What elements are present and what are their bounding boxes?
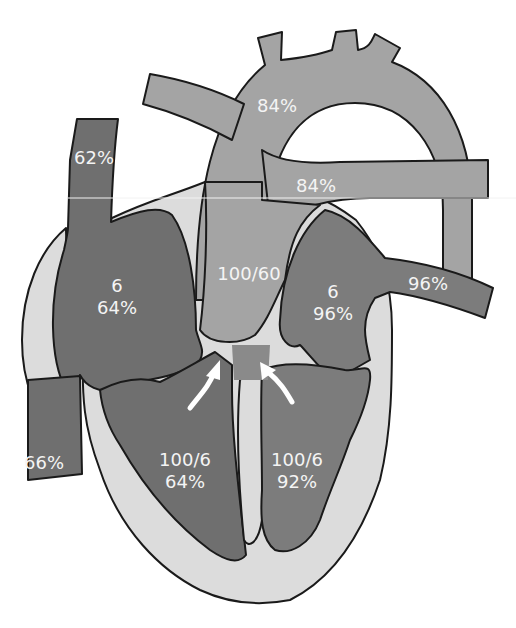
left-atrium-pressure-label: 6 [327,281,338,302]
left-atrium-saturation-label: 96% [313,303,353,324]
aortic-arch-saturation-label: 84% [257,95,297,116]
right-ventricle-pressure-label: 100/6 [159,449,211,470]
svc-saturation-label: 62% [74,147,114,168]
right-ventricle-saturation-label: 64% [165,471,205,492]
pulmonary-artery-saturation-label: 84% [296,175,336,196]
pulmonary-artery-left-branch [143,74,244,140]
left-ventricle-pressure-label: 100/6 [271,449,323,470]
right-atrium-pressure-label: 6 [111,275,122,296]
great-artery-root-pressure-label: 100/60 [217,263,280,284]
right-atrium-saturation-label: 64% [97,297,137,318]
ivc-saturation-label: 66% [24,452,64,473]
pulmonary-vein-saturation-label: 96% [408,273,448,294]
heart-diagram: 62% 66% 6 64% 100/6 64% 84% 84% 100/60 6… [0,0,516,628]
left-ventricle-saturation-label: 92% [277,471,317,492]
